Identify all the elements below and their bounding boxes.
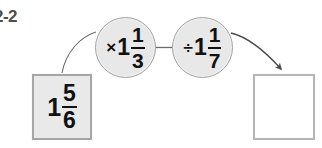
divide-to-answer-connector <box>231 33 281 69</box>
start-value-whole: 1 <box>47 95 61 120</box>
multiply-numerator: 1 <box>131 24 145 45</box>
input-to-multiply-connector <box>62 32 96 73</box>
start-value-numerator: 5 <box>62 82 77 105</box>
divide-operation-expression: ÷ 1 1 7 <box>184 24 222 71</box>
multiply-denominator: 3 <box>131 50 145 71</box>
answer-value-box[interactable] <box>253 74 315 140</box>
start-value-box[interactable]: 1 5 6 <box>32 74 92 140</box>
start-value-mixed-number: 1 5 6 <box>47 82 77 133</box>
multiply-operation-expression: × 1 1 3 <box>106 24 144 71</box>
multiply-whole: 1 <box>117 36 130 59</box>
divide-fraction: 1 7 <box>208 24 222 71</box>
divide-operation-circle[interactable]: ÷ 1 1 7 <box>172 17 233 78</box>
start-value-denominator: 6 <box>62 109 77 132</box>
start-value-fraction: 5 6 <box>62 82 77 133</box>
divide-numerator: 1 <box>208 24 222 45</box>
divide-denominator: 7 <box>208 50 222 71</box>
multiplication-sign-icon: × <box>106 39 116 56</box>
worksheet-diagram: 2-2 1 5 6 × 1 1 <box>0 0 322 148</box>
multiply-fraction: 1 3 <box>131 24 145 71</box>
multiply-operation-circle[interactable]: × 1 1 3 <box>95 17 156 78</box>
division-sign-icon: ÷ <box>184 39 193 56</box>
divide-whole: 1 <box>194 36 207 59</box>
